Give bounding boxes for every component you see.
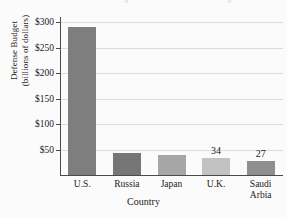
bar-value-label: 34: [211, 145, 221, 156]
plot-area: $50$100$150$200$250$300 3427 U.S.RussiaJ…: [60, 17, 283, 176]
bar: [113, 153, 141, 175]
x-tick-label-line: U.K.: [207, 179, 225, 189]
y-axis-title-line1: Defense Budget: [9, 21, 19, 80]
gridline: [61, 22, 283, 23]
bar-chart-figure: Defense Budget (billions of dollars) $50…: [0, 0, 287, 217]
y-axis-title-line2: (billions of dollars): [19, 0, 30, 126]
bar: [158, 155, 186, 175]
scan-artifact: [95, 0, 275, 4]
x-tick-label-line: Japan: [161, 179, 183, 189]
x-tick-label-line: Saudi: [250, 179, 272, 189]
bar-value-label: 27: [256, 148, 266, 159]
y-tick-label: $50: [40, 145, 54, 155]
x-axis-line: [60, 175, 283, 176]
y-tick-mark: [56, 48, 60, 49]
y-axis-line: [60, 17, 61, 176]
y-tick-mark: [56, 150, 60, 151]
y-tick-mark: [56, 22, 60, 23]
bar: 27: [247, 161, 275, 175]
y-axis-title: Defense Budget (billions of dollars): [9, 0, 30, 126]
y-tick-label: $200: [35, 68, 54, 78]
bar: 34: [202, 158, 230, 175]
x-tick-label-line: U.S.: [74, 179, 91, 189]
y-tick-mark: [56, 73, 60, 74]
y-tick-label: $150: [35, 94, 54, 104]
y-tick-mark: [56, 99, 60, 100]
x-axis-title: Country: [0, 196, 287, 207]
y-tick-mark: [56, 124, 60, 125]
y-tick-label: $250: [35, 43, 54, 53]
y-tick-label: $100: [35, 119, 54, 129]
y-tick-label: $300: [35, 17, 54, 27]
bar: [68, 27, 96, 175]
x-tick-label-line: Russia: [114, 179, 139, 189]
